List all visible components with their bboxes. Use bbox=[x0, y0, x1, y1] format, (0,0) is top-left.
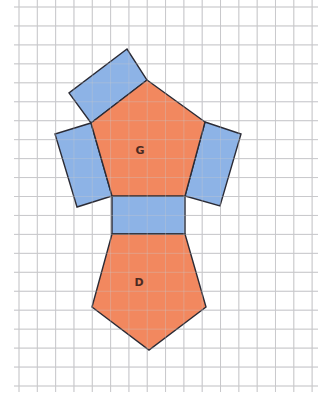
label-g: G bbox=[135, 144, 144, 157]
label-d: D bbox=[134, 276, 143, 289]
net-diagram: G D bbox=[0, 0, 328, 412]
